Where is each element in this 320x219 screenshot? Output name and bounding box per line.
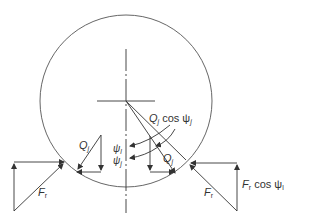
label-q-cos-psi: Qj cos ψj xyxy=(149,113,192,125)
q-cos-pointer xyxy=(156,129,175,146)
label-psi-1: ψl xyxy=(113,144,122,155)
label-fr-right: Fr xyxy=(204,187,213,199)
label-fr-cos-psi: Fr cos ψl xyxy=(242,179,284,191)
psi-j-arc xyxy=(130,147,158,158)
right-contact-line xyxy=(126,101,186,160)
right-fr-arrow xyxy=(190,165,237,211)
label-psi-j: ψj xyxy=(113,156,122,167)
label-q-right: Qj xyxy=(163,153,173,165)
label-q-left: Qj xyxy=(79,140,89,152)
label-fr-left: Fr xyxy=(38,187,47,199)
